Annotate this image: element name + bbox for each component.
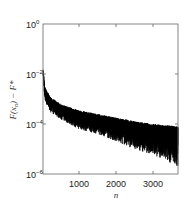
y-axis-label: F(xn) − F* bbox=[8, 80, 19, 121]
y-ticks bbox=[43, 24, 178, 174]
data-series bbox=[43, 70, 178, 166]
xtick-label-2000: 2000 bbox=[106, 179, 126, 189]
convergence-line bbox=[43, 70, 178, 166]
axes-frame bbox=[43, 24, 178, 174]
ytick-label-1e-4: 10−4 bbox=[26, 119, 44, 130]
xtick-label-1000: 1000 bbox=[69, 179, 89, 189]
ytick-label-1e-6: 10−6 bbox=[26, 169, 44, 180]
x-axis-label: n bbox=[114, 190, 119, 200]
ytick-label-1e-2: 10−2 bbox=[26, 69, 44, 80]
ytick-label-1e0: 100 bbox=[26, 19, 40, 30]
chart-canvas: 100 10−2 10−4 10−6 1000 2000 3000 n F(xn… bbox=[0, 0, 191, 210]
xtick-label-3000: 3000 bbox=[143, 179, 163, 189]
